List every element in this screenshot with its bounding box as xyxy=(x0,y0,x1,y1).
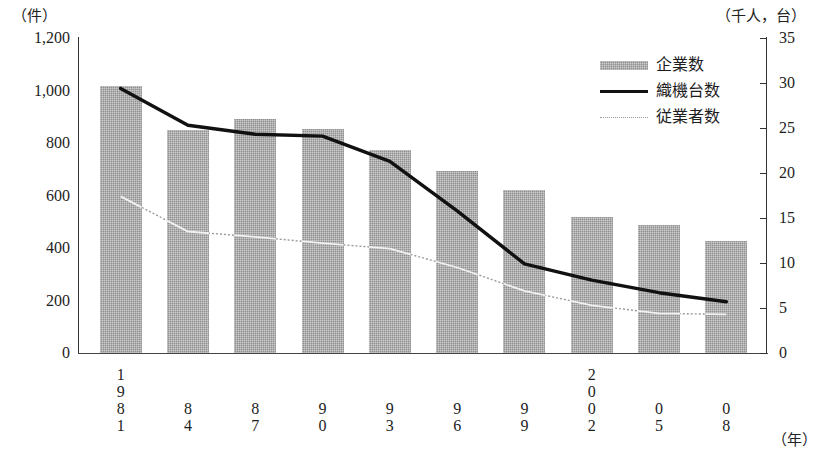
legend-label-employees: 従業者数 xyxy=(656,104,720,130)
right-axis-tickmark xyxy=(760,353,767,354)
left-axis-unit-label: （件） xyxy=(12,4,57,25)
legend-item-enterprises: 企業数 xyxy=(600,52,720,78)
right-axis-tickmark xyxy=(760,128,767,129)
x-tick-label-08: 08 xyxy=(705,400,747,434)
x-tick-label-2002: 2002 xyxy=(571,366,613,434)
right-axis-tick-35: 35 xyxy=(779,29,821,47)
right-axis-tick-10: 10 xyxy=(779,254,821,272)
right-axis-line xyxy=(766,37,767,354)
legend-label-enterprises: 企業数 xyxy=(656,52,704,78)
x-axis-unit-label: （年） xyxy=(772,428,817,449)
left-axis-tick-400: 400 xyxy=(4,239,70,257)
left-axis-tick-1000: 1,000 xyxy=(4,82,70,100)
right-axis-tickmark xyxy=(760,308,767,309)
right-axis-tick-15: 15 xyxy=(779,209,821,227)
legend-item-employees: 従業者数 xyxy=(600,104,720,130)
right-axis-unit-label: （千人，台） xyxy=(716,4,806,25)
right-axis-tick-25: 25 xyxy=(779,119,821,137)
x-tick-label-87: 87 xyxy=(234,400,276,434)
x-tick-label-84: 84 xyxy=(167,400,209,434)
x-tick-label-05: 05 xyxy=(638,400,680,434)
solid-line-swatch-icon xyxy=(600,83,648,99)
right-axis-tick-20: 20 xyxy=(779,164,821,182)
left-axis-line xyxy=(78,37,79,354)
right-axis-tickmark xyxy=(760,173,767,174)
x-tick-label-90: 90 xyxy=(302,400,344,434)
legend-item-looms: 織機台数 xyxy=(600,78,720,104)
right-axis-tick-0: 0 xyxy=(779,344,821,362)
right-axis-tick-5: 5 xyxy=(779,299,821,317)
left-axis-tick-200: 200 xyxy=(4,292,70,310)
x-axis-baseline xyxy=(78,353,768,354)
left-axis-tick-1200: 1,200 xyxy=(4,29,70,47)
x-tick-label-96: 96 xyxy=(436,400,478,434)
legend-label-looms: 織機台数 xyxy=(656,78,720,104)
left-axis-tick-800: 800 xyxy=(4,134,70,152)
chart-legend: 企業数 織機台数 従業者数 xyxy=(600,52,720,130)
right-axis-tickmark xyxy=(760,38,767,39)
dotted-line-swatch-icon xyxy=(600,109,648,125)
bar-swatch-icon xyxy=(600,57,648,73)
right-axis-tick-30: 30 xyxy=(779,74,821,92)
left-axis-tick-0: 0 xyxy=(4,344,70,362)
x-tick-label-1981: 1981 xyxy=(100,366,142,434)
right-axis-tickmark xyxy=(760,218,767,219)
left-axis-tick-600: 600 xyxy=(4,187,70,205)
right-axis-tickmark xyxy=(760,83,767,84)
employee-count-line-highlight xyxy=(121,196,727,314)
employee-count-line-over-bars xyxy=(121,196,727,314)
chart-container: （件） （千人，台） 1,2001,0008006004002000 35302… xyxy=(0,0,830,458)
right-axis-tickmark xyxy=(760,263,767,264)
employee-count-line xyxy=(121,196,727,314)
x-tick-label-99: 99 xyxy=(503,400,545,434)
x-tick-label-93: 93 xyxy=(369,400,411,434)
